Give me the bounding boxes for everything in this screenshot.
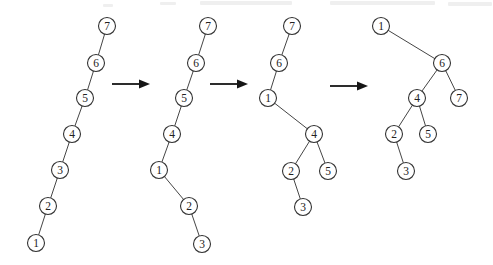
node-label: 7 [456, 92, 462, 104]
node-label: 3 [199, 238, 205, 250]
node-label: 6 [193, 57, 199, 69]
tree-4: 1647253 [373, 18, 468, 180]
node-label: 4 [414, 92, 420, 104]
tree-4-edge-1-6 [381, 26, 442, 63]
tree-4-node-5: 5 [420, 126, 437, 143]
arrowhead-icon [139, 80, 150, 89]
tree-2: 7654123 [151, 18, 217, 253]
node-label: 3 [403, 165, 409, 177]
tree-3-node-6: 6 [271, 55, 288, 72]
arrowhead-icon [357, 82, 368, 91]
tree-4-node-6: 6 [434, 55, 451, 72]
node-label: 7 [104, 20, 110, 32]
node-label: 1 [378, 20, 384, 32]
node-label: 4 [169, 128, 175, 140]
node-label: 4 [311, 128, 317, 140]
tree-3-node-7: 7 [284, 18, 301, 35]
tree-3-node-3: 3 [295, 199, 312, 216]
node-label: 2 [288, 165, 294, 177]
tree-2-node-2: 2 [181, 198, 198, 215]
tree-2-node-7: 7 [200, 18, 217, 35]
tree-3-node-2: 2 [283, 163, 300, 180]
tree-2-node-5: 5 [176, 90, 193, 107]
node-label: 4 [69, 128, 75, 140]
tree-1-node-7: 7 [99, 18, 116, 35]
node-label: 3 [300, 201, 306, 213]
node-label: 5 [325, 165, 331, 177]
tree-2-node-3: 3 [194, 236, 211, 253]
tree-3: 7614253 [260, 18, 337, 216]
tree-1-node-1: 1 [28, 235, 45, 252]
arrow-2 [210, 80, 248, 89]
node-label: 6 [439, 57, 445, 69]
tree-1-node-4: 4 [64, 126, 81, 143]
tree-4-node-4: 4 [409, 90, 426, 107]
tree-1-node-2: 2 [40, 198, 57, 215]
node-label: 1 [156, 164, 162, 176]
tree-1-node-6: 6 [88, 55, 105, 72]
figure-canvas: 7654321765412376142531647253 [0, 0, 493, 265]
tree-3-node-4: 4 [306, 126, 323, 143]
node-label: 3 [57, 164, 63, 176]
tree-4-node-2: 2 [386, 126, 403, 143]
node-label: 7 [205, 20, 211, 32]
tree-2-node-4: 4 [164, 126, 181, 143]
node-label: 5 [181, 92, 187, 104]
tree-1-node-3: 3 [52, 162, 69, 179]
node-label: 2 [45, 200, 51, 212]
node-label: 6 [276, 57, 282, 69]
tree-transformation-diagram: 7654321765412376142531647253 [0, 0, 493, 265]
node-label: 2 [391, 128, 397, 140]
tree-4-node-7: 7 [451, 90, 468, 107]
tree-1: 7654321 [28, 18, 116, 252]
node-label: 7 [289, 20, 295, 32]
node-label: 5 [82, 92, 88, 104]
node-label: 1 [33, 237, 39, 249]
tree-4-node-1: 1 [373, 18, 390, 35]
node-label: 2 [186, 200, 192, 212]
tree-2-node-6: 6 [188, 55, 205, 72]
node-label: 5 [425, 128, 431, 140]
node-label: 1 [265, 92, 271, 104]
node-label: 6 [93, 57, 99, 69]
tree-1-node-5: 5 [77, 90, 94, 107]
arrowhead-icon [237, 80, 248, 89]
tree-3-node-1: 1 [260, 90, 277, 107]
arrow-3 [330, 82, 368, 91]
arrow-1 [112, 80, 150, 89]
tree-2-node-1: 1 [151, 162, 168, 179]
tree-3-node-5: 5 [320, 163, 337, 180]
tree-4-node-3: 3 [398, 163, 415, 180]
